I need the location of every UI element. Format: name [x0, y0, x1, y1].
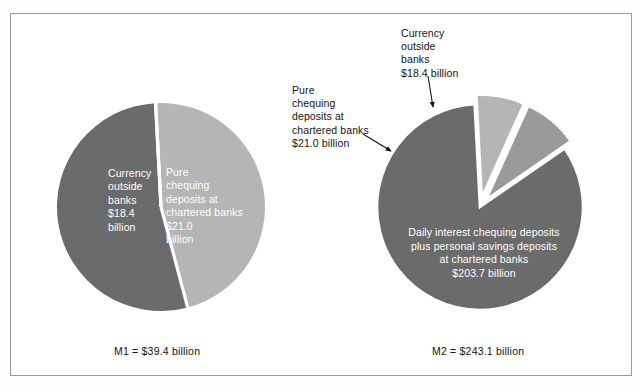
- m2-caption: M2 = $243.1 billion: [432, 345, 524, 357]
- m1-label-currency: Currency outside banks $18.4 billion: [108, 167, 151, 234]
- figure-root: Pure chequing deposits at chartered bank…: [0, 0, 641, 392]
- m1-label-pure-chequing: Pure chequing deposits at chartered bank…: [166, 166, 243, 246]
- annotation-currency-outside: Currency outside banks $18.4 billion: [401, 27, 458, 80]
- m2-label-daily-interest: Daily interest chequing deposits plus pe…: [392, 226, 576, 280]
- pie-charts-svg: [0, 0, 641, 392]
- charts-stage: Pure chequing deposits at chartered bank…: [0, 0, 641, 392]
- m1-caption: M1 = $39.4 billion: [114, 345, 200, 357]
- arrow-currency-outside: [428, 76, 433, 107]
- annotation-pure-chequing: Pure chequing deposits at chartered bank…: [292, 84, 369, 150]
